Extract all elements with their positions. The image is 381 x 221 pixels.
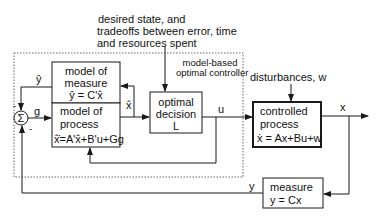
- objective-annotation-line3: and resources spent: [97, 37, 197, 49]
- measure-label: measure: [270, 181, 313, 193]
- measure-equation: y = Cx: [270, 194, 301, 206]
- optimal-decision-label2: decision: [150, 108, 202, 120]
- controller-group-label-line2: optimal controller: [176, 68, 244, 78]
- model-of-process-equation: x̂̇=A'x̂+B'u+Gg: [54, 133, 124, 145]
- objective-annotation-line1: desired state, and: [98, 13, 185, 25]
- model-of-process-label2: process: [60, 118, 99, 130]
- optimal-decision-label3: L: [150, 120, 202, 132]
- signal-x-hat-label: x̂: [126, 99, 132, 111]
- model-of-measure-equation: ŷ = C'x̂: [52, 89, 120, 101]
- objective-annotation-line2: tradeoffs between error, time: [97, 25, 237, 37]
- summer-minus-top: -: [13, 101, 16, 111]
- model-of-process-label1: model of: [60, 105, 102, 117]
- model-of-measure-label2: measure: [52, 77, 120, 89]
- summer-minus-bottom: -: [29, 124, 32, 134]
- signal-y-label: y: [249, 180, 255, 192]
- controlled-process-label1: controlled: [260, 105, 308, 117]
- disturbances-label: disturbances, w: [250, 71, 326, 83]
- signal-x-label: x: [340, 101, 346, 113]
- signal-y-hat-label: ŷ: [36, 73, 42, 85]
- controlled-process-equation: ẋ = Ax+Bu+w: [257, 132, 322, 144]
- model-of-measure-label1: model of: [52, 65, 120, 77]
- signal-g-label: g: [34, 105, 40, 117]
- summer-sigma-symbol: Σ: [14, 112, 28, 124]
- optimal-decision-label1: optimal: [150, 96, 202, 108]
- x-to-measure-line: [324, 116, 349, 194]
- controlled-process-label2: process: [260, 118, 299, 130]
- signal-u-label: u: [218, 103, 224, 115]
